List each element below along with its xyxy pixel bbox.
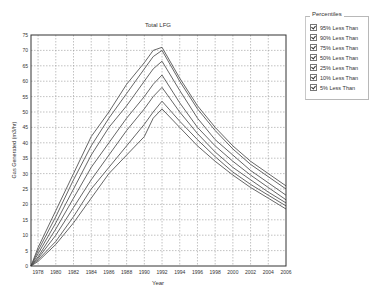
y-tick-label: 60 [22, 78, 28, 84]
y-tick-label: 10 [22, 232, 28, 238]
legend-title: Percentiles [310, 11, 344, 17]
y-tick-label: 5 [25, 248, 28, 254]
x-tick-label: 1998 [210, 269, 221, 275]
checkbox-icon[interactable] [310, 64, 317, 71]
legend-item-90[interactable]: 90% Less Than [310, 33, 358, 42]
series-line [31, 47, 286, 266]
checkbox-icon[interactable] [310, 54, 317, 61]
plot-area [31, 35, 286, 266]
legend-item-95[interactable]: 95% Less Than [310, 23, 358, 32]
y-tick-label: 35 [22, 155, 28, 161]
x-tick-label: 1984 [86, 269, 97, 275]
series-line [31, 75, 286, 266]
x-axis-ticks: 1978198019821984198619881990199219941996… [33, 269, 292, 275]
y-tick-label: 70 [22, 47, 28, 53]
y-tick-label: 50 [22, 109, 28, 115]
chart-title: Total LFG [145, 22, 171, 28]
y-tick-label: 55 [22, 94, 28, 100]
x-tick-label: 1996 [192, 269, 203, 275]
legend-panel: Percentiles 95% Less Than 90% Less Than … [305, 16, 369, 100]
y-tick-label: 75 [22, 32, 28, 38]
x-tick-label: 2006 [280, 269, 291, 275]
x-tick-label: 2000 [227, 269, 238, 275]
y-tick-label: 65 [22, 63, 28, 69]
y-tick-label: 0 [25, 263, 28, 269]
x-tick-label: 1982 [68, 269, 79, 275]
legend-item-75[interactable]: 75% Less Than [310, 43, 358, 52]
series-line [31, 101, 286, 266]
legend-item-10[interactable]: 10% Less Than [310, 73, 358, 82]
x-tick-label: 1990 [139, 269, 150, 275]
y-tick-label: 25 [22, 186, 28, 192]
checkbox-icon[interactable] [310, 84, 317, 91]
checkbox-icon[interactable] [310, 24, 317, 31]
checkbox-icon[interactable] [310, 44, 317, 51]
y-tick-label: 15 [22, 217, 28, 223]
x-tick-label: 1992 [156, 269, 167, 275]
y-tick-label: 40 [22, 140, 28, 146]
x-tick-label: 1988 [121, 269, 132, 275]
series-line [31, 109, 286, 266]
checkbox-icon[interactable] [310, 34, 317, 41]
y-tick-label: 45 [22, 124, 28, 130]
x-tick-label: 1994 [174, 269, 185, 275]
x-tick-label: 1980 [50, 269, 61, 275]
x-tick-label: 1986 [103, 269, 114, 275]
x-tick-label: 2004 [263, 269, 274, 275]
legend-item-5[interactable]: 5% Less Than [310, 83, 355, 92]
y-axis-label: Gas Generated (m3/hr) [11, 121, 17, 178]
x-tick-label: 1978 [33, 269, 44, 275]
y-tick-label: 20 [22, 201, 28, 207]
checkbox-icon[interactable] [310, 74, 317, 81]
grid-lines [31, 35, 286, 266]
legend-item-50[interactable]: 50% Less Than [310, 53, 358, 62]
x-tick-label: 2002 [245, 269, 256, 275]
series-lines [31, 47, 286, 266]
series-line [31, 87, 286, 266]
legend-item-25[interactable]: 25% Less Than [310, 63, 358, 72]
x-axis-label: Year [152, 280, 164, 286]
y-axis-ticks: 051015202530354045505560657075 [22, 32, 28, 269]
y-tick-label: 30 [22, 171, 28, 177]
